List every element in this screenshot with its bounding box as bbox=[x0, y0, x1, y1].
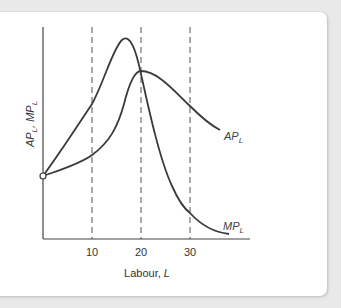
x-tick-10: 10 bbox=[86, 246, 98, 258]
x-tick-30: 30 bbox=[184, 246, 196, 258]
reference-lines bbox=[92, 27, 190, 239]
x-axis-label-var: L bbox=[164, 267, 170, 279]
ap-label-sub: L bbox=[239, 136, 243, 145]
y-axis-label: APL, MPL bbox=[24, 101, 39, 148]
chart-svg: 10 20 30 Labour, L APL, MPL APL MPL bbox=[0, 0, 341, 308]
mp-curve bbox=[43, 38, 229, 234]
axes bbox=[43, 27, 250, 239]
ap-curve bbox=[43, 71, 220, 176]
ap-label-main: AP bbox=[223, 130, 239, 142]
mp-label-main: MP bbox=[223, 220, 240, 232]
y-label-ap: AP bbox=[24, 132, 36, 148]
x-tick-20: 20 bbox=[135, 246, 147, 258]
ap-curve-label: APL bbox=[223, 130, 243, 145]
start-point-marker bbox=[40, 173, 46, 179]
y-label-mp: MP bbox=[24, 105, 36, 122]
x-axis-label-text: Labour, bbox=[124, 267, 164, 279]
y-label-mp-sub: L bbox=[30, 101, 39, 105]
mp-label-sub: L bbox=[240, 226, 244, 235]
x-axis-label: Labour, L bbox=[124, 267, 170, 279]
